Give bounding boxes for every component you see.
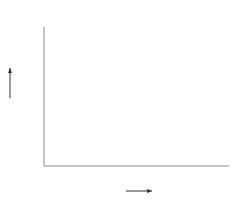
temperature-chart — [0, 0, 241, 207]
